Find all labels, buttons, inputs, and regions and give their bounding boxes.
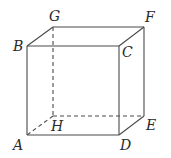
vertex-label-b: B [12,38,23,54]
vertex-label-f: F [144,9,156,25]
edge-HA-hidden [27,116,53,135]
edge-ED [119,116,144,135]
vertex-label-d: D [119,137,131,153]
vertex-label-e: E [145,117,156,133]
vertex-label-a: A [11,137,23,153]
vertex-label-g: G [49,8,60,24]
vertex-label-c: C [122,44,133,60]
vertex-label-h: H [50,118,64,134]
cube-diagram: G F B C H E A D [0,0,171,158]
edge-BG [27,27,53,46]
